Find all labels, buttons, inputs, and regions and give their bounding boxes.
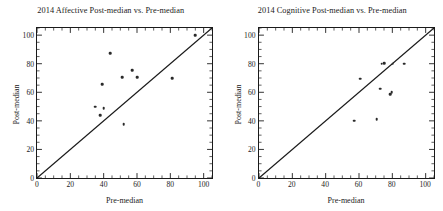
data-point [391,91,394,94]
data-point [122,123,125,126]
data-point [121,76,124,79]
plot-canvas-cognitive [259,28,434,178]
y-tick-label: 0 [252,174,256,183]
panel-cognitive: 2014 Cognitive Post-median vs. Pre-media… [222,0,443,211]
panel-affective: 2014 Affective Post-median vs. Pre-media… [0,0,222,211]
y-tick-label: 20 [248,145,256,154]
y-tick-label: 0 [30,174,34,183]
y-tick-label: 60 [26,88,34,97]
x-axis-label-cognitive: Pre-median [258,196,435,205]
x-tick-label: 20 [67,180,75,189]
data-point [99,114,102,117]
x-tick-label: 80 [388,180,396,189]
plot-canvas-affective [37,28,212,178]
x-tick-label: 60 [133,180,141,189]
x-tick-label: 60 [355,180,363,189]
data-point [359,77,362,80]
data-point [383,62,386,65]
x-tick-label: 100 [198,180,209,189]
x-tick-label: 40 [321,180,329,189]
y-tick-label: 20 [26,145,34,154]
panel-title-affective: 2014 Affective Post-median vs. Pre-media… [0,6,222,15]
data-point [391,62,394,65]
data-point [353,120,356,123]
identity-reference-line [259,28,434,178]
data-point [101,83,104,86]
data-point [109,52,112,55]
y-tick-label: 80 [26,59,34,68]
data-point [171,77,174,80]
x-axis-label-affective: Pre-median [36,196,213,205]
x-tick-label: 0 [257,180,261,189]
data-point [403,62,406,65]
x-tick-label: 80 [167,180,175,189]
y-tick-label: 80 [248,59,256,68]
scatter-plot-figure: 2014 Affective Post-median vs. Pre-media… [0,0,443,211]
data-point [194,34,197,37]
plot-area-affective: 020406080100020406080100 [36,27,213,179]
data-point [102,107,105,110]
identity-reference-line [37,28,212,178]
y-tick-label: 60 [248,88,256,97]
y-axis-label-cognitive: Post-median [233,44,242,164]
x-tick-label: 20 [288,180,296,189]
y-tick-label: 40 [26,116,34,125]
data-point [131,69,134,72]
y-axis-label-affective: Post-median [12,44,21,164]
x-tick-label: 100 [419,180,430,189]
y-tick-label: 100 [23,31,34,40]
y-tick-label: 100 [244,31,255,40]
plot-area-cognitive: 020406080100020406080100 [258,27,435,179]
x-tick-label: 0 [35,180,39,189]
data-point [379,87,382,90]
data-point [376,118,379,121]
panel-title-cognitive: 2014 Cognitive Post-median vs. Pre-media… [222,6,443,15]
y-tick-label: 40 [248,116,256,125]
x-tick-label: 40 [100,180,108,189]
data-point [94,105,97,108]
data-point [136,76,139,79]
